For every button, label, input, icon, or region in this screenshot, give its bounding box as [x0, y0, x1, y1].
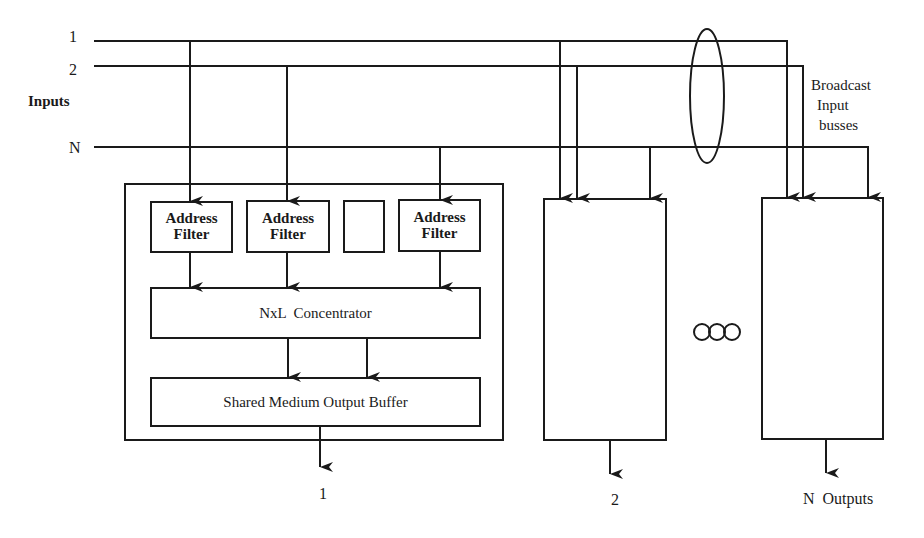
address-filter-2-line1: Address	[247, 210, 329, 226]
buffer-label: Shared Medium Output Buffer	[151, 394, 480, 410]
output-label-N: N Outputs	[803, 490, 873, 507]
output-label-2: 2	[611, 491, 619, 508]
address-filter-1-text: Address Filter	[151, 210, 232, 242]
input-label-2: 2	[69, 61, 77, 78]
input-label-1: 1	[69, 28, 77, 45]
input-bus-N	[94, 147, 868, 197]
address-filter-N-line2: Filter	[399, 225, 480, 241]
output-module-N	[762, 198, 883, 439]
inputs-label: Inputs	[28, 93, 70, 110]
diagram-canvas	[0, 0, 924, 538]
input-bus-2	[94, 66, 803, 197]
broadcast-label: Broadcast Input busses	[811, 75, 871, 135]
concentrator-label: NxL Concentrator	[151, 305, 480, 321]
address-filter-N-line1: Address	[399, 209, 480, 225]
address-filter-N-text: Address Filter	[399, 209, 480, 241]
address-filter-2-text: Address Filter	[247, 210, 329, 242]
output-module-2	[544, 199, 666, 440]
input-label-N: N	[69, 139, 81, 156]
ellipsis-icon	[694, 324, 740, 340]
address-filter-2-line2: Filter	[247, 226, 329, 242]
output-label-1: 1	[319, 485, 327, 502]
broadcast-bus-ellipse	[690, 29, 724, 163]
broadcast-label-line1: Broadcast	[811, 75, 871, 95]
address-filter-1-line1: Address	[151, 210, 232, 226]
address-filter-1-line2: Filter	[151, 226, 232, 242]
broadcast-label-line3: busses	[811, 115, 871, 135]
broadcast-label-line2: Input	[811, 95, 871, 115]
address-filter-blank	[344, 201, 384, 252]
